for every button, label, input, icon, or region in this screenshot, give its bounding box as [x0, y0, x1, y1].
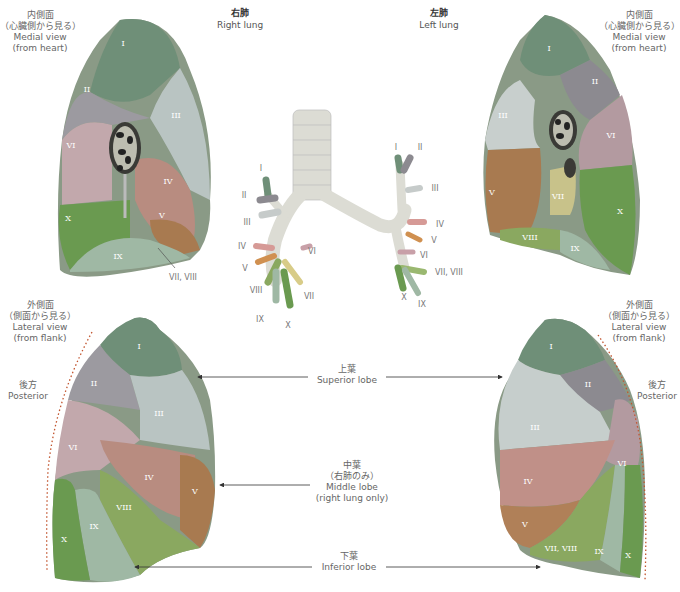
- label-medial-view-left-lung: 内側面 （心臓側から見る） Medial view (from heart): [598, 10, 680, 54]
- svg-text:VII, VIII: VII, VIII: [544, 544, 577, 553]
- svg-text:X: X: [61, 535, 67, 544]
- svg-text:X: X: [65, 214, 71, 223]
- svg-text:IV: IV: [524, 477, 533, 486]
- svg-text:I: I: [121, 39, 124, 48]
- label-posterior-right: 後方 Posterior: [634, 380, 680, 402]
- svg-text:III: III: [498, 111, 507, 120]
- left-lung-lateral-view: I II III VI IV V VII, VIII IX X: [494, 319, 646, 580]
- svg-text:VI: VI: [66, 141, 76, 150]
- heading-left-lung-jp: 左肺: [404, 7, 474, 19]
- label-jp: 下葉: [316, 551, 382, 562]
- svg-text:V: V: [488, 188, 495, 197]
- svg-text:I: I: [137, 342, 140, 351]
- heading-left-lung: 左肺 Left lung: [404, 7, 474, 31]
- label-en: Lateral view: [0, 322, 80, 333]
- svg-text:IX: IX: [571, 244, 580, 253]
- label-en: Medial view: [0, 32, 80, 43]
- svg-text:III: III: [530, 423, 539, 432]
- label-en-sub: (right lung only): [314, 493, 390, 504]
- bronchus-right-i: I: [260, 164, 262, 173]
- label-en: Middle lobe: [314, 482, 390, 493]
- bronchus-left-vi: VI: [420, 251, 428, 260]
- svg-text:IX: IX: [595, 547, 604, 556]
- right-lung-lateral-view: I II III VI IV V VIII IX X: [47, 318, 215, 583]
- bronchus-left-ix: IX: [418, 300, 426, 309]
- label-jp: 内側面: [0, 10, 80, 21]
- bronchus-right-ix: IX: [256, 315, 264, 324]
- bronchus-right-vi: VI: [308, 247, 316, 256]
- label-jp-sub: （側面から見る）: [598, 311, 680, 322]
- label-middle-lobe: 中葉 （右肺のみ） Middle lobe (right lung only): [310, 460, 394, 504]
- label-en: Posterior: [6, 391, 50, 402]
- label-jp: 中葉: [314, 460, 390, 471]
- heading-right-lung-en: Right lung: [217, 20, 263, 30]
- svg-text:V: V: [158, 211, 165, 220]
- label-medial-view-right-lung: 内側面 （心臓側から見る） Medial view (from heart): [0, 10, 80, 54]
- label-en-sub: (from flank): [0, 333, 80, 344]
- svg-text:II: II: [592, 77, 598, 86]
- svg-text:IX: IX: [114, 252, 123, 261]
- label-en-sub: (from heart): [598, 43, 680, 54]
- bronchus-right-ii: II: [242, 191, 247, 200]
- label-jp-sub: （心臓側から見る）: [0, 21, 80, 32]
- label-inferior-lobe: 下葉 Inferior lobe: [312, 551, 386, 573]
- label-posterior-left: 後方 Posterior: [6, 380, 50, 402]
- label-en: Inferior lobe: [316, 562, 382, 573]
- label-jp: 外側面: [598, 300, 680, 311]
- label-en: Lateral view: [598, 322, 680, 333]
- label-en: Medial view: [598, 32, 680, 43]
- bronchus-left-iii: III: [431, 184, 438, 193]
- bronchus-left-vii-viii: VII, VIII: [435, 268, 463, 277]
- svg-text:III: III: [171, 111, 180, 120]
- label-en-sub: (from flank): [598, 333, 680, 344]
- label-en-sub: (from heart): [0, 43, 80, 54]
- left-lung-medial-view: I II III VI V VII X VIII IX: [483, 15, 640, 275]
- label-jp: 後方: [634, 380, 680, 391]
- svg-text:II: II: [84, 85, 90, 94]
- svg-text:VII: VII: [551, 192, 564, 201]
- bronchial-tree: I II III IV V VI VIII VII IX X I II III …: [238, 110, 463, 330]
- svg-text:I: I: [547, 44, 550, 53]
- svg-text:II: II: [585, 380, 591, 389]
- heading-right-lung: 右肺 Right lung: [205, 7, 275, 31]
- label-en: Superior lobe: [312, 375, 382, 386]
- bronchus-right-x: X: [285, 321, 291, 330]
- label-jp-sub: （右肺のみ）: [314, 471, 390, 482]
- label-lateral-view-left-lung: 外側面 （側面から見る） Lateral view (from flank): [598, 300, 680, 344]
- label-jp: 後方: [6, 380, 50, 391]
- label-jp: 上葉: [312, 364, 382, 375]
- bronchus-left-iv: IV: [436, 220, 444, 229]
- svg-text:I: I: [549, 342, 552, 351]
- label-jp: 外側面: [0, 300, 80, 311]
- svg-text:IX: IX: [90, 522, 99, 531]
- svg-text:IV: IV: [164, 177, 173, 186]
- bronchus-left-x: X: [401, 293, 407, 302]
- svg-text:VI: VI: [617, 459, 627, 468]
- label-superior-lobe: 上葉 Superior lobe: [308, 364, 386, 386]
- svg-text:VI: VI: [68, 443, 78, 452]
- bronchus-left-v: V: [431, 236, 437, 245]
- label-en: Posterior: [634, 391, 680, 402]
- label-jp-sub: （心臓側から見る）: [598, 21, 680, 32]
- svg-text:X: X: [617, 207, 623, 216]
- bronchus-left-i: I: [395, 143, 397, 152]
- svg-text:IV: IV: [145, 473, 154, 482]
- svg-text:VIII: VIII: [115, 503, 131, 512]
- svg-text:X: X: [625, 551, 631, 560]
- svg-text:III: III: [154, 409, 163, 418]
- svg-text:V: V: [521, 520, 528, 529]
- bronchus-right-v: V: [242, 264, 248, 273]
- bronchus-right-vii: VII: [304, 292, 314, 301]
- bronchus-right-iii: III: [243, 218, 250, 227]
- label-jp: 内側面: [598, 10, 680, 21]
- bronchus-right-iv: IV: [238, 242, 246, 251]
- heading-left-lung-en: Left lung: [419, 20, 458, 30]
- svg-text:V: V: [191, 487, 198, 496]
- svg-text:VI: VI: [606, 131, 616, 140]
- bronchus-left-ii: II: [418, 143, 423, 152]
- label-jp-sub: （側面から見る）: [0, 311, 80, 322]
- label-lateral-view-right-lung: 外側面 （側面から見る） Lateral view (from flank): [0, 300, 80, 344]
- callout-vii-viii: VII, VIII: [169, 273, 197, 282]
- right-lung-medial-view: I II III VI IV V X IX VII, VIII: [58, 19, 211, 282]
- svg-text:II: II: [91, 379, 97, 388]
